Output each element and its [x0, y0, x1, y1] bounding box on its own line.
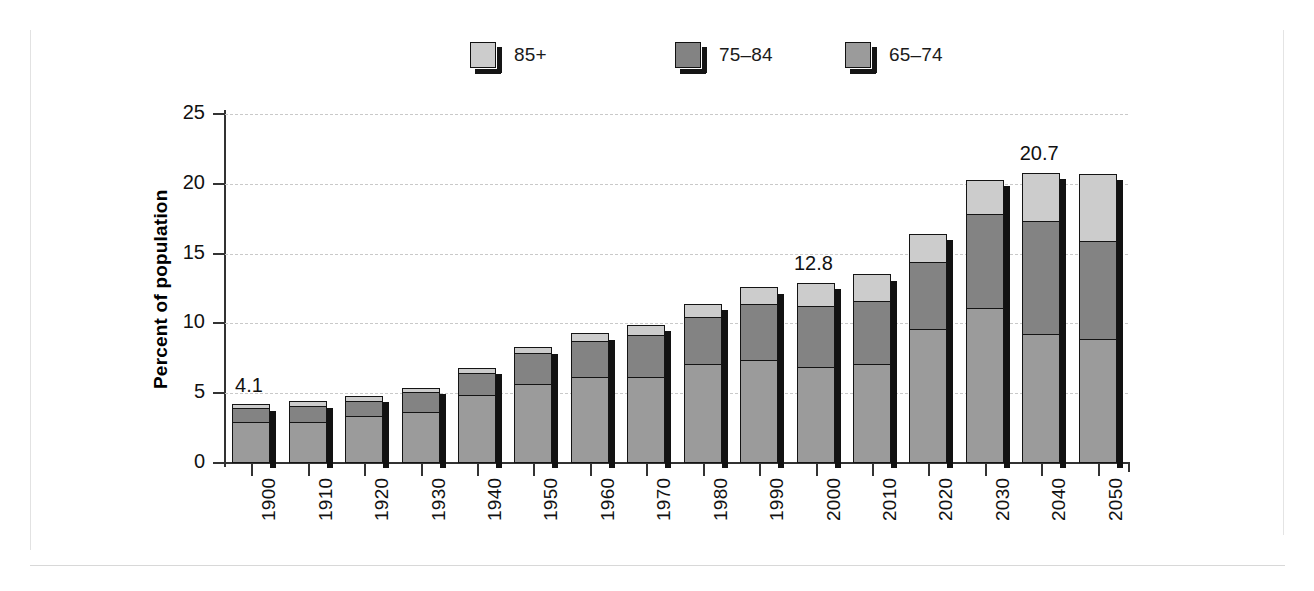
y-axis-tick-label: 25	[183, 101, 205, 124]
x-axis-tick-label: 1980	[710, 478, 732, 521]
bar-segment-85+	[909, 234, 947, 263]
x-axis-tick	[251, 463, 253, 476]
bar-segment-7584	[627, 334, 665, 377]
y-axis-tick	[213, 462, 224, 464]
bar-segment-85+	[1079, 174, 1117, 243]
bar-segment-85+	[684, 304, 722, 318]
plot-area	[225, 114, 1128, 463]
x-axis-tick-label: 2020	[935, 478, 957, 521]
x-axis-tick	[533, 463, 535, 476]
y-axis-tick-label: 15	[183, 241, 205, 264]
bar-segment-6574	[966, 308, 1004, 463]
x-axis-tick	[1041, 463, 1043, 476]
bar-segment-85+	[232, 404, 270, 408]
bar-segment-85+	[740, 287, 778, 305]
bar-segment-7584	[345, 400, 383, 417]
bar-2020	[909, 235, 947, 463]
x-axis-tick	[590, 463, 592, 476]
x-axis-tick-label: 1950	[540, 478, 562, 521]
bar-segment-7584	[853, 301, 891, 365]
y-axis-tick	[213, 183, 224, 185]
bar-segment-85+	[1022, 173, 1060, 222]
bar-segment-7584	[909, 262, 947, 331]
bar-segment-7584	[797, 305, 835, 368]
bar-shadow	[1060, 179, 1066, 468]
x-axis-tick-label: 2010	[879, 478, 901, 521]
bar-segment-6574	[627, 376, 665, 463]
x-axis-tick	[646, 463, 648, 476]
x-axis-tick	[872, 463, 874, 476]
bar-segment-85+	[402, 388, 440, 394]
bar-segment-7584	[402, 392, 440, 413]
x-axis-tick-label: 1970	[653, 478, 675, 521]
bar-1960	[571, 335, 609, 463]
y-axis-tick	[213, 253, 224, 255]
bar-segment-6574	[1022, 333, 1060, 463]
bar-segment-6574	[514, 383, 552, 463]
x-axis-tick-label: 1910	[315, 478, 337, 521]
bar-data-label-2000: 12.8	[794, 252, 833, 275]
bar-2030	[966, 181, 1004, 463]
bar-shadow	[778, 294, 784, 469]
bar-shadow	[891, 281, 897, 468]
x-axis-tick	[928, 463, 930, 476]
bar-shadow	[327, 408, 333, 468]
bar-segment-6574	[740, 360, 778, 463]
x-axis-tick	[703, 463, 705, 476]
y-axis-tick	[213, 322, 224, 324]
bar-segment-7584	[740, 304, 778, 361]
bar-1920	[345, 397, 383, 463]
page-right-rule	[1283, 30, 1284, 535]
bar-shadow	[552, 354, 558, 468]
bar-data-label-2040: 20.7	[1020, 142, 1059, 165]
bar-segment-6574	[571, 376, 609, 463]
bar-shadow	[835, 289, 841, 468]
x-axis-tick	[759, 463, 761, 476]
bar-1940	[458, 369, 496, 463]
legend-label: 85+	[514, 44, 547, 66]
y-axis-tick-label: 0	[194, 450, 205, 473]
bar-2010	[853, 276, 891, 463]
bar-segment-85+	[571, 333, 609, 341]
x-axis-tick	[985, 463, 987, 476]
bar-1950	[514, 349, 552, 463]
bar-segment-85+	[627, 325, 665, 336]
x-axis-tick-label: 1920	[371, 478, 393, 521]
y-axis-tick	[213, 392, 224, 394]
y-axis-tick-label: 5	[194, 380, 205, 403]
bar-1930	[402, 389, 440, 463]
x-axis-tick	[477, 463, 479, 476]
x-axis-tick	[308, 463, 310, 476]
bar-shadow	[440, 394, 446, 468]
bar-segment-6574	[909, 329, 947, 463]
bar-segment-7584	[1079, 241, 1117, 340]
bar-shadow	[496, 374, 502, 468]
bar-shadow	[722, 310, 728, 468]
bar-segment-6574	[402, 411, 440, 463]
gridline	[225, 114, 1128, 115]
bar-shadow	[947, 240, 953, 468]
y-axis-title: Percent of population	[150, 189, 172, 388]
page-left-rule	[30, 30, 31, 550]
bar-2050	[1079, 175, 1117, 463]
bar-segment-7584	[966, 213, 1004, 309]
bar-shadow	[270, 411, 276, 468]
bar-segment-6574	[797, 367, 835, 463]
x-axis-tick-label: 1960	[597, 478, 619, 521]
bar-shadow	[1117, 180, 1123, 468]
x-axis-tick-label: 2040	[1048, 478, 1070, 521]
y-axis-tick-label: 10	[183, 310, 205, 333]
x-axis-tick	[1098, 463, 1100, 476]
bar-1970	[627, 326, 665, 463]
bar-segment-85+	[797, 283, 835, 307]
bar-segment-7584	[514, 353, 552, 385]
y-axis-tick-label: 20	[183, 171, 205, 194]
x-axis-tick-label: 1930	[428, 478, 450, 521]
bar-segment-7584	[458, 372, 496, 396]
bar-2000	[797, 284, 835, 463]
bar-segment-7584	[1022, 220, 1060, 335]
bar-shadow	[665, 331, 671, 468]
x-axis-tick-label: 1900	[258, 478, 280, 521]
bar-segment-7584	[232, 407, 270, 422]
bar-segment-6574	[853, 364, 891, 463]
